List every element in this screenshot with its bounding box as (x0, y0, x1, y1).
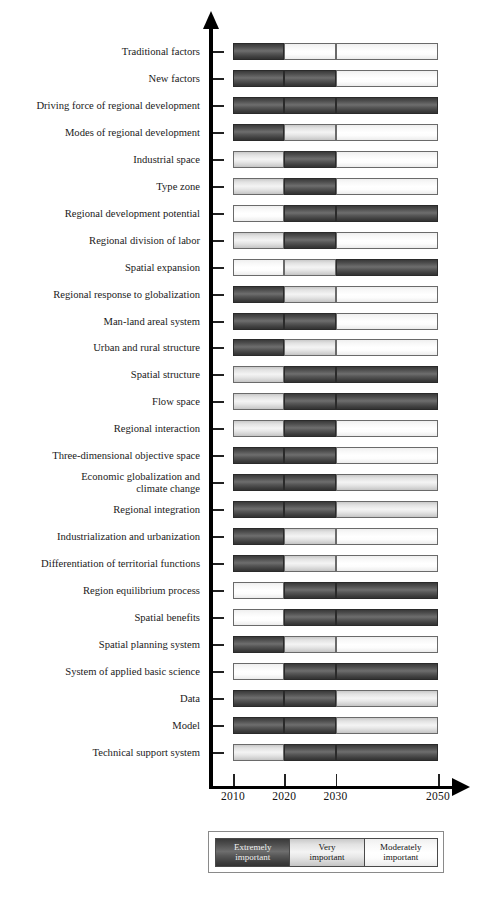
bar-row (233, 286, 438, 303)
bar-row (233, 528, 438, 545)
bar-segment-moderate (284, 43, 335, 60)
bar-segment-extreme (284, 205, 335, 222)
bar-segment-extreme (284, 393, 335, 410)
category-label: Regional interaction (0, 423, 200, 435)
bar-segment-extreme (284, 366, 335, 383)
bar-segment-moderate (233, 259, 284, 276)
y-axis-tick (213, 644, 224, 646)
bar-segment-very (336, 690, 439, 707)
category-label: Spatial planning system (0, 639, 200, 651)
category-label: Flow space (0, 396, 200, 408)
bar-segment-extreme (233, 43, 284, 60)
bar-segment-extreme (284, 474, 335, 491)
bar-segment-moderate (233, 609, 284, 626)
x-axis-line (209, 786, 454, 789)
bar-segment-extreme (233, 313, 284, 330)
category-label: Type zone (0, 181, 200, 193)
category-label: Model (0, 720, 200, 732)
bar-segment-moderate (336, 555, 439, 572)
bar-segment-extreme (336, 582, 439, 599)
bar-row (233, 501, 438, 518)
legend-item-very: Very important (289, 838, 364, 867)
bar-segment-very (233, 393, 284, 410)
bar-segment-extreme (233, 286, 284, 303)
legend-item-label: Moderately important (380, 843, 421, 863)
bar-segment-moderate (336, 151, 439, 168)
bar-row (233, 636, 438, 653)
y-axis-tick (213, 455, 224, 457)
y-axis-tick (213, 347, 224, 349)
bar-segment-very (233, 420, 284, 437)
bar-segment-very (336, 501, 439, 518)
category-label: Data (0, 693, 200, 705)
bar-row (233, 420, 438, 437)
legend-item-label: Extremely important (234, 843, 272, 863)
bar-segment-very (233, 151, 284, 168)
category-label: New factors (0, 73, 200, 85)
y-axis-tick (213, 698, 224, 700)
bar-row (233, 339, 438, 356)
bar-segment-moderate (336, 286, 439, 303)
bar-segment-extreme (284, 313, 335, 330)
bar-segment-very (336, 474, 439, 491)
x-axis-tick (438, 774, 440, 786)
bar-segment-extreme (336, 663, 439, 680)
category-label: Differentiation of territorial functions (0, 558, 200, 570)
bar-row (233, 366, 438, 383)
bar-segment-extreme (284, 609, 335, 626)
y-axis-tick (213, 51, 224, 53)
category-label: Spatial benefits (0, 612, 200, 624)
bar-row (233, 744, 438, 761)
y-axis-tick (213, 428, 224, 430)
y-axis-tick (213, 509, 224, 511)
bar-segment-very (284, 636, 335, 653)
bar-segment-moderate (336, 313, 439, 330)
bar-segment-very (284, 259, 335, 276)
category-label: Three-dimensional objective space (0, 450, 200, 462)
bar-segment-moderate (336, 339, 439, 356)
y-axis-tick (213, 105, 224, 107)
bar-segment-extreme (233, 474, 284, 491)
category-label: Region equilibrium process (0, 585, 200, 597)
x-axis-tick-label: 2030 (323, 790, 347, 802)
bar-segment-moderate (336, 528, 439, 545)
bar-segment-extreme (336, 366, 439, 383)
bar-row (233, 582, 438, 599)
bar-row (233, 97, 438, 114)
y-axis-tick (213, 671, 224, 673)
bar-segment-extreme (284, 97, 335, 114)
x-axis-tick-label: 2020 (272, 790, 296, 802)
bar-segment-extreme (284, 717, 335, 734)
bar-segment-extreme (336, 205, 439, 222)
bar-segment-moderate (233, 582, 284, 599)
category-label: Economic globalization and climate chang… (0, 471, 200, 494)
bar-segment-extreme (233, 555, 284, 572)
x-axis-tick (336, 774, 338, 786)
y-axis-tick (213, 590, 224, 592)
y-axis-tick (213, 725, 224, 727)
bar-row (233, 474, 438, 491)
y-axis-tick (213, 374, 224, 376)
y-axis-tick (213, 321, 224, 323)
bar-segment-extreme (233, 690, 284, 707)
bar-segment-moderate (336, 43, 439, 60)
category-label: Modes of regional development (0, 127, 200, 139)
x-axis-tick (284, 774, 286, 786)
bar-segment-very (284, 286, 335, 303)
bar-segment-moderate (233, 663, 284, 680)
category-label: Technical support system (0, 747, 200, 759)
bar-row (233, 313, 438, 330)
category-label: Urban and rural structure (0, 342, 200, 354)
category-label: System of applied basic science (0, 666, 200, 678)
y-axis-tick (213, 752, 224, 754)
category-label: Regional response to globalization (0, 289, 200, 301)
category-label: Industrial space (0, 154, 200, 166)
category-label: Spatial expansion (0, 262, 200, 274)
bar-segment-very (233, 366, 284, 383)
bar-row (233, 447, 438, 464)
y-axis-tick (213, 186, 224, 188)
bar-segment-very (233, 232, 284, 249)
bar-segment-extreme (233, 636, 284, 653)
category-label: Regional integration (0, 504, 200, 516)
y-axis-tick (213, 482, 224, 484)
